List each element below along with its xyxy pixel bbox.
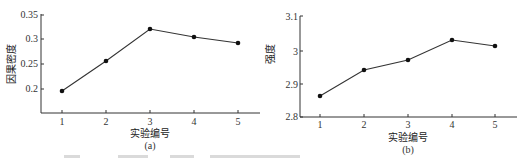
chart-a-ytick-label: 0.35	[21, 9, 39, 20]
data-point	[362, 68, 367, 73]
chart-b-panel-label: (b)	[402, 144, 414, 156]
chart-b-xtick-label: 5	[493, 119, 498, 130]
chart-b-xtick-label: 3	[406, 119, 411, 130]
figure: 0.35 0.3 0.25 0.2 1 2 3 4 5 因果密度 实验编号 (a…	[0, 0, 524, 161]
chart-a-xtick-label: 3	[148, 116, 153, 127]
chart-b-xtick-label: 1	[318, 119, 323, 130]
data-point	[450, 38, 455, 43]
chart-a-ytick-label: 0.25	[21, 58, 39, 69]
data-point	[406, 58, 411, 63]
chart-a-x-axis-title: 实验编号	[130, 127, 170, 139]
cropped-caption-fragment	[64, 155, 80, 158]
chart-a-xtick-label: 5	[236, 116, 241, 127]
chart-b-x-axis-title: 实验编号	[388, 131, 428, 143]
data-point	[104, 59, 109, 64]
data-point	[236, 41, 241, 46]
chart-a: 0.35 0.3 0.25 0.2 1 2 3 4 5 因果密度 实验编号 (a…	[5, 9, 260, 152]
chart-b-y-axis-title: 强度	[264, 44, 276, 64]
cropped-caption-fragment	[118, 155, 148, 158]
chart-a-xtick-label: 4	[192, 116, 197, 127]
chart-b-ytick-label: 3.1	[286, 11, 299, 22]
chart-a-panel-label: (a)	[144, 140, 155, 152]
chart-a-ytick-label: 0.3	[26, 33, 39, 44]
chart-b-ytick-label: 3	[293, 46, 298, 57]
chart-b-ytick-label: 2.8	[286, 111, 299, 122]
chart-b: 3.1 3 2.9 2.8 1 2 3 4 5 强度 实验编号 (b)	[264, 11, 517, 156]
chart-b-markers	[318, 38, 498, 99]
chart-b-xtick-label: 2	[362, 119, 367, 130]
chart-a-line	[62, 29, 238, 91]
chart-a-xtick-label: 1	[60, 116, 65, 127]
data-point	[192, 35, 197, 40]
chart-a-ytick-label: 0.2	[26, 83, 39, 94]
data-point	[318, 94, 323, 99]
data-point	[60, 89, 65, 94]
chart-a-y-axis-title: 因果密度	[5, 44, 17, 84]
cropped-caption-fragment	[170, 155, 194, 158]
chart-a-markers	[60, 27, 241, 94]
cropped-caption-fragment	[210, 155, 300, 158]
data-point	[493, 44, 498, 49]
chart-b-xtick-label: 4	[450, 119, 455, 130]
chart-a-xtick-label: 2	[104, 116, 109, 127]
chart-b-ytick-label: 2.9	[286, 79, 299, 90]
chart-b-line	[320, 40, 495, 96]
data-point	[148, 27, 153, 32]
